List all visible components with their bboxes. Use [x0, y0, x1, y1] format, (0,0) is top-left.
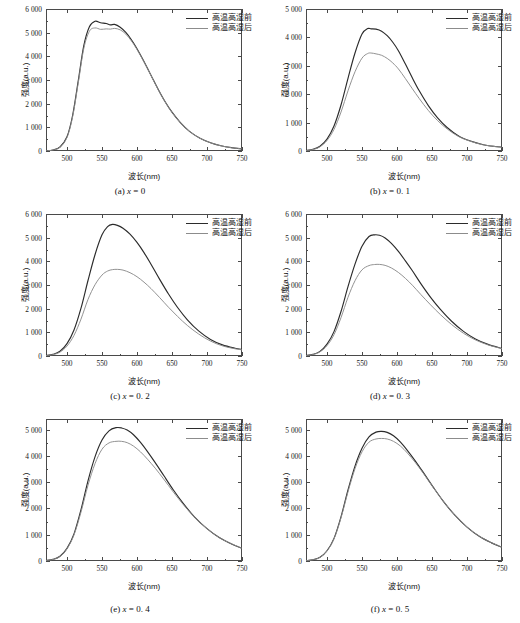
caption-index: (e) — [110, 604, 122, 614]
x-tick — [327, 352, 328, 356]
y-tick — [306, 94, 310, 95]
x-tick — [242, 352, 243, 356]
legend-swatch — [186, 28, 208, 29]
y-tick — [306, 214, 310, 215]
y-tick-label: 4 000 — [25, 257, 42, 266]
legend-label: 高温高湿前 — [212, 219, 252, 227]
caption-equals: = — [127, 604, 137, 614]
x-tick-top — [102, 419, 103, 423]
y-tick-minor — [46, 139, 48, 140]
y-tick — [46, 430, 50, 431]
y-tick-label: 1 000 — [25, 123, 42, 132]
x-tick-top — [327, 9, 328, 13]
y-tick-minor — [46, 21, 48, 22]
x-tick — [137, 557, 138, 561]
legend-swatch — [446, 438, 468, 439]
legend-label: 高温高湿后 — [472, 434, 512, 442]
x-tick-label: 600 — [131, 564, 142, 573]
y-tick-label: 2 000 — [25, 304, 42, 313]
y-tick-right — [498, 332, 502, 333]
x-tick-minor — [155, 559, 156, 561]
y-tick-minor — [306, 226, 308, 227]
y-tick — [46, 482, 50, 483]
legend-swatch — [446, 223, 468, 224]
x-tick-top — [397, 214, 398, 218]
legend-item: 高温高湿后 — [186, 24, 252, 32]
y-tick-right — [238, 238, 242, 239]
x-tick-label: 600 — [131, 359, 142, 368]
x-tick-top — [67, 9, 68, 13]
x-tick-minor — [345, 149, 346, 151]
x-tick-top — [467, 9, 468, 13]
y-tick-right — [498, 37, 502, 38]
x-tick — [432, 352, 433, 356]
x-tick — [172, 557, 173, 561]
panel-caption: (a) x = 0 — [0, 186, 260, 196]
x-tick-top — [362, 9, 363, 13]
y-tick — [306, 456, 310, 457]
y-tick-right — [498, 151, 502, 152]
x-tick — [67, 352, 68, 356]
x-tick — [207, 147, 208, 151]
caption-value: 0. 4 — [136, 604, 150, 614]
y-tick — [306, 66, 310, 67]
x-axis-title: 波长(nm) — [46, 170, 242, 181]
y-tick — [306, 285, 310, 286]
legend-item: 高温高湿前 — [446, 219, 512, 227]
series-line — [306, 28, 502, 150]
y-tick — [306, 123, 310, 124]
y-tick-minor — [306, 273, 308, 274]
panel-caption: (c) x = 0. 2 — [0, 391, 260, 401]
y-tick — [46, 56, 50, 57]
y-tick-label: 1 000 — [25, 328, 42, 337]
x-tick — [172, 147, 173, 151]
y-tick-label: 5 000 — [25, 233, 42, 242]
legend: 高温高湿前高温高湿后 — [446, 219, 512, 237]
caption-equals: = — [387, 186, 397, 196]
x-tick-minor — [345, 354, 346, 356]
y-tick — [46, 508, 50, 509]
panel-caption: (b) x = 0. 1 — [260, 186, 520, 196]
legend-item: 高温高湿后 — [446, 434, 512, 442]
y-tick-right — [498, 123, 502, 124]
x-tick-top — [207, 214, 208, 218]
caption-index: (a) — [115, 186, 127, 196]
x-tick — [362, 147, 363, 151]
caption-value: 0. 1 — [396, 186, 410, 196]
y-tick-minor — [46, 116, 48, 117]
y-tick-label: 6 000 — [25, 210, 42, 219]
x-tick — [207, 557, 208, 561]
series-line — [306, 264, 502, 355]
x-tick-label: 650 — [426, 359, 437, 368]
x-tick — [467, 352, 468, 356]
legend: 高温高湿前高温高湿后 — [446, 14, 512, 32]
y-tick-minor — [46, 321, 48, 322]
panel-caption: (d) x = 0. 3 — [260, 391, 520, 401]
x-tick — [172, 352, 173, 356]
chart-panel-a: 01 0002 0003 0004 0005 0006 000500550600… — [0, 0, 260, 205]
x-tick — [137, 147, 138, 151]
y-tick-label: 0 — [298, 557, 302, 566]
y-tick — [46, 9, 50, 10]
y-tick-minor — [46, 297, 48, 298]
series-line — [46, 441, 242, 560]
y-tick-right — [238, 151, 242, 152]
y-tick-right — [238, 261, 242, 262]
y-tick-right — [238, 56, 242, 57]
y-tick-label: 0 — [298, 147, 302, 156]
caption-value: 0. 3 — [396, 391, 410, 401]
y-tick-minor — [306, 137, 308, 138]
x-tick-minor — [155, 354, 156, 356]
y-tick-right — [498, 482, 502, 483]
x-tick-minor — [225, 559, 226, 561]
legend-item: 高温高湿后 — [446, 24, 512, 32]
y-tick-minor — [46, 522, 48, 523]
y-tick — [46, 561, 50, 562]
y-tick — [306, 37, 310, 38]
x-tick-top — [362, 419, 363, 423]
x-tick-top — [172, 419, 173, 423]
y-tick-right — [238, 33, 242, 34]
x-tick-top — [137, 214, 138, 218]
chart-panel-d: 01 0002 0003 0004 0005 0006 000500550600… — [260, 205, 520, 410]
y-tick — [306, 332, 310, 333]
